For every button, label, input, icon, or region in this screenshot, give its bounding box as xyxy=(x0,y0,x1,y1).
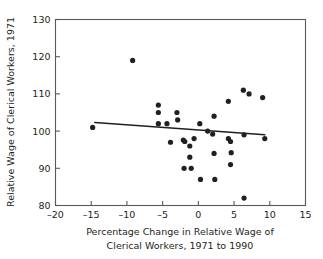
data-point xyxy=(241,195,246,200)
data-point xyxy=(189,166,194,171)
data-point xyxy=(241,88,246,93)
data-point xyxy=(156,102,161,107)
data-point xyxy=(246,91,251,96)
x-tick-label: –10 xyxy=(119,209,136,220)
data-point xyxy=(164,121,169,126)
y-tick-label: 80 xyxy=(38,200,50,211)
data-point xyxy=(226,99,231,104)
data-point xyxy=(260,95,265,100)
x-axis-title-line-1: Percentage Change in Relative Wage of xyxy=(86,226,274,237)
data-point xyxy=(211,114,216,119)
x-tick-label: 5 xyxy=(231,209,237,220)
data-point xyxy=(187,143,192,148)
chart-canvas: –20–15–10–5051015 8090100110120130 Perce… xyxy=(0,0,323,259)
data-point xyxy=(130,58,135,63)
data-point xyxy=(198,177,203,182)
data-point xyxy=(168,140,173,145)
data-point xyxy=(211,151,216,156)
data-point xyxy=(181,166,186,171)
data-point xyxy=(156,110,161,115)
data-point xyxy=(156,121,161,126)
data-point xyxy=(228,139,233,144)
data-point xyxy=(182,139,187,144)
x-tick-label: –5 xyxy=(157,209,168,220)
x-tick-label: –15 xyxy=(83,209,100,220)
data-point xyxy=(197,121,202,126)
x-tick-label: 15 xyxy=(299,209,311,220)
y-tick-label: 110 xyxy=(32,88,50,99)
y-axis-title: Relative Wage of Clerical Workers, 1971 xyxy=(5,17,16,207)
x-tick-label: 10 xyxy=(264,209,276,220)
x-tick-label: 0 xyxy=(195,209,201,220)
data-point xyxy=(229,150,234,155)
data-point xyxy=(175,117,180,122)
y-tick-label: 120 xyxy=(32,51,50,62)
scatter-plot-figure: –20–15–10–5051015 8090100110120130 Perce… xyxy=(0,0,323,259)
y-tick-label: 90 xyxy=(38,163,50,174)
data-point xyxy=(90,125,95,130)
data-point xyxy=(210,131,215,136)
y-tick-label: 130 xyxy=(32,14,50,25)
data-point xyxy=(262,136,267,141)
x-axis-title-line-2: Clerical Workers, 1971 to 1990 xyxy=(107,240,254,251)
data-point xyxy=(191,136,196,141)
data-point xyxy=(187,155,192,160)
data-point xyxy=(212,177,217,182)
y-tick-label: 100 xyxy=(32,126,50,137)
data-point xyxy=(174,110,179,115)
data-point xyxy=(228,162,233,167)
